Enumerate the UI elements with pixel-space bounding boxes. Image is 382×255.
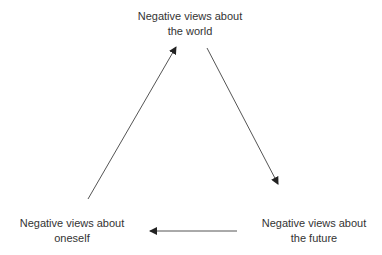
arrow-self-to-world bbox=[88, 47, 176, 199]
cycle-arrows bbox=[0, 0, 382, 255]
arrow-world-to-future bbox=[207, 48, 278, 184]
